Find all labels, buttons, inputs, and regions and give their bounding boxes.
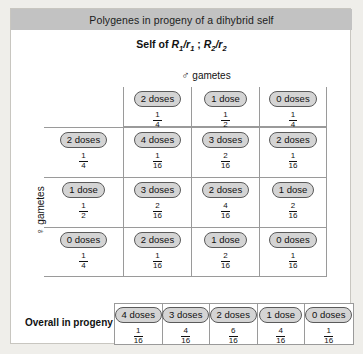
punnett-cell: 3 doses 2 16 [191, 127, 259, 177]
dose-pill: 1 dose [272, 182, 315, 198]
punnett-cell: 2 doses 4 16 [191, 177, 259, 227]
dose-pill: 2 doses [134, 91, 181, 107]
figure-card: Polygenes in progeny of a dihybrid self … [10, 8, 351, 344]
frequency-fraction: 4 16 [221, 202, 230, 220]
fraction-denominator: 16 [153, 212, 162, 221]
figure-subtitle: Self of R1/r1 ; R2/r2 [11, 38, 352, 53]
dose-pill: 2 doses [210, 307, 257, 323]
dose-pill: 3 doses [162, 307, 209, 323]
frequency-fraction: 2 16 [221, 252, 230, 270]
dose-pill: 1 dose [62, 182, 105, 198]
punnett-cell: 0 doses 1 16 [259, 227, 327, 277]
fraction-denominator: 2 [79, 212, 87, 221]
frequency-fraction: 4 16 [181, 327, 190, 345]
dose-pill: 0 doses [305, 307, 352, 323]
fraction-denominator: 16 [221, 262, 230, 271]
subtitle-prefix: Self of [136, 38, 171, 50]
figure-title-band: Polygenes in progeny of a dihybrid self [11, 9, 352, 30]
overall-in-progeny-strip: 4 doses 1 16 3 doses 4 16 2 doses 6 16 1… [114, 303, 354, 345]
frequency-fraction: 2 16 [221, 152, 230, 170]
frequency-fraction: 1 16 [153, 152, 162, 170]
frequency-fraction: 1 4 [79, 152, 87, 170]
punnett-row: 2 doses 1 4 4 doses 1 16 3 doses 2 16 [44, 127, 327, 177]
punnett-cell: 1 dose 2 16 [191, 227, 259, 277]
overall-cell-1: 3 doses 4 16 [163, 304, 211, 344]
overall-cell-4: 0 doses 1 16 [305, 304, 353, 344]
column-header-cell-2: 0 doses 1 4 [259, 87, 327, 127]
row-header-cell-0: 2 doses 1 4 [44, 127, 123, 177]
subtitle-gene2-lower-sub: 2 [222, 44, 226, 53]
column-header-cell-0: 2 doses 1 4 [123, 87, 191, 127]
frequency-fraction: 1 16 [289, 152, 298, 170]
dose-pill: 4 doses [134, 132, 181, 148]
dose-pill: 0 doses [269, 232, 316, 248]
frequency-fraction: 6 16 [229, 327, 238, 345]
overall-cell-3: 1 dose 4 16 [258, 304, 306, 344]
frequency-fraction: 1 16 [324, 327, 333, 345]
fraction-denominator: 16 [221, 162, 230, 171]
punnett-cell: 2 doses 1 16 [123, 227, 191, 277]
fraction-denominator: 16 [134, 337, 143, 346]
column-header-cell-1: 1 dose 1 2 [191, 87, 259, 127]
male-axis-text: gametes [192, 70, 230, 81]
frequency-fraction: 1 2 [79, 202, 87, 220]
fraction-denominator: 16 [153, 262, 162, 271]
frequency-fraction: 1 16 [153, 252, 162, 270]
fraction-denominator: 4 [79, 262, 87, 271]
row-header-cell-1: 1 dose 1 2 [44, 177, 123, 227]
dose-pill: 0 doses [60, 232, 107, 248]
row-header-cell-2: 0 doses 1 4 [44, 227, 123, 277]
dose-pill: 2 doses [134, 232, 181, 248]
overall-cell-2: 2 doses 6 16 [210, 304, 258, 344]
fraction-denominator: 16 [289, 262, 298, 271]
punnett-cell: 1 dose 2 16 [259, 177, 327, 227]
dose-pill: 1 dose [204, 91, 247, 107]
punnett-corner-cell [44, 87, 123, 127]
male-gametes-axis-label: ♂ gametes [81, 69, 331, 81]
frequency-fraction: 4 16 [276, 327, 285, 345]
frequency-fraction: 1 16 [134, 327, 143, 345]
male-symbol-icon: ♂ [181, 69, 189, 81]
frequency-fraction: 2 16 [289, 202, 298, 220]
fraction-denominator: 16 [229, 337, 238, 346]
fraction-denominator: 16 [289, 212, 298, 221]
dose-pill: 3 doses [202, 132, 249, 148]
frequency-fraction: 2 16 [153, 202, 162, 220]
fraction-denominator: 4 [79, 162, 87, 171]
fraction-denominator: 16 [221, 212, 230, 221]
punnett-square: 2 doses 1 4 1 dose 1 2 0 doses 1 4 [44, 87, 327, 289]
punnett-cell: 4 doses 1 16 [123, 127, 191, 177]
dose-pill: 1 dose [259, 307, 302, 323]
fraction-denominator: 16 [153, 162, 162, 171]
punnett-cell: 2 doses 1 16 [259, 127, 327, 177]
dose-pill: 0 doses [269, 91, 316, 107]
frequency-fraction: 1 4 [79, 252, 87, 270]
punnett-row: 0 doses 1 4 2 doses 1 16 1 dose 2 16 [44, 227, 327, 277]
dose-pill: 2 doses [269, 132, 316, 148]
dose-pill: 1 dose [204, 232, 247, 248]
dose-pill: 2 doses [202, 182, 249, 198]
dose-pill: 3 doses [134, 182, 181, 198]
dose-pill: 4 doses [115, 307, 162, 323]
punnett-header-row: 2 doses 1 4 1 dose 1 2 0 doses 1 4 [44, 87, 327, 127]
dose-pill: 2 doses [60, 132, 107, 148]
subtitle-gene1-upper: R [171, 38, 179, 50]
punnett-cell: 3 doses 2 16 [123, 177, 191, 227]
fraction-denominator: 16 [324, 337, 333, 346]
fraction-denominator: 16 [276, 337, 285, 346]
fraction-denominator: 16 [289, 162, 298, 171]
subtitle-separator: ; [194, 38, 203, 50]
figure-title: Polygenes in progeny of a dihybrid self [89, 14, 273, 26]
overall-cell-0: 4 doses 1 16 [115, 304, 163, 344]
overall-in-progeny-label: Overall in progeny [25, 317, 113, 328]
fraction-denominator: 16 [181, 337, 190, 346]
punnett-row: 1 dose 1 2 3 doses 2 16 2 doses 4 16 [44, 177, 327, 227]
frequency-fraction: 1 16 [289, 252, 298, 270]
